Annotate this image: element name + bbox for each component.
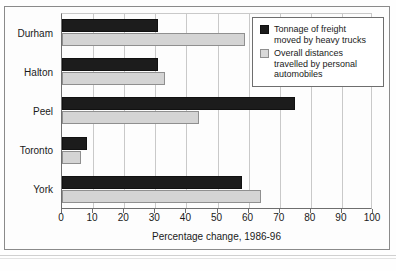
bar-peel-tonnage <box>62 97 295 110</box>
x-tick-label-100: 100 <box>364 212 381 223</box>
legend: Tonnage of freight moved by heavy trucks… <box>252 17 384 87</box>
bar-group-toronto <box>62 132 371 171</box>
x-tick-label-60: 60 <box>242 212 253 223</box>
legend-entry-distance: Overall distances travelled by personal … <box>260 48 377 80</box>
x-tick-label-20: 20 <box>118 212 129 223</box>
scan-artifact-line <box>0 255 396 256</box>
bar-halton-distance <box>62 72 165 85</box>
legend-label-distance-line2: travelled by personal <box>274 59 357 69</box>
bar-group-york <box>62 171 371 210</box>
legend-swatch-black-icon <box>260 25 269 34</box>
legend-label-distance-line1: Overall distances <box>274 48 343 58</box>
x-tick-label-70: 70 <box>273 212 284 223</box>
y-label-halton: Halton <box>24 66 53 77</box>
figure: Durham Halton Peel Toronto York <box>0 0 396 271</box>
x-tick-label-80: 80 <box>304 212 315 223</box>
bar-group-peel <box>62 92 371 131</box>
bar-halton-tonnage <box>62 58 158 71</box>
legend-swatch-grey-icon <box>260 49 269 58</box>
legend-label-distance: Overall distances travelled by personal … <box>274 48 357 80</box>
x-tick-label-30: 30 <box>149 212 160 223</box>
legend-label-tonnage-line1: Tonnage of freight <box>274 24 346 34</box>
x-tick-label-90: 90 <box>335 212 346 223</box>
bar-durham-distance <box>62 33 245 46</box>
bar-york-tonnage <box>62 176 242 189</box>
y-label-york: York <box>33 184 53 195</box>
x-tick-label-10: 10 <box>87 212 98 223</box>
legend-label-tonnage-line2: moved by heavy trucks <box>274 35 366 45</box>
bar-durham-tonnage <box>62 19 158 32</box>
y-label-peel: Peel <box>33 106 53 117</box>
bar-york-distance <box>62 190 261 203</box>
x-tick-label-50: 50 <box>211 212 222 223</box>
x-tick-label-40: 40 <box>180 212 191 223</box>
bar-peel-distance <box>62 111 199 124</box>
y-label-durham: Durham <box>17 27 53 38</box>
x-axis-tick-labels: 0 10 20 30 40 50 60 70 80 90 100 <box>61 212 372 228</box>
legend-label-distance-line3: automobiles <box>274 69 323 79</box>
x-axis-title: Percentage change, 1986-96 <box>61 231 372 242</box>
bar-toronto-distance <box>62 151 81 164</box>
scan-artifact-line-2 <box>0 258 396 259</box>
y-label-toronto: Toronto <box>20 145 53 156</box>
legend-label-tonnage: Tonnage of freight moved by heavy trucks <box>274 24 366 45</box>
x-tick-label-0: 0 <box>58 212 64 223</box>
legend-entry-tonnage: Tonnage of freight moved by heavy trucks <box>260 24 377 45</box>
y-axis-category-labels: Durham Halton Peel Toronto York <box>0 13 57 209</box>
bar-toronto-tonnage <box>62 137 87 150</box>
